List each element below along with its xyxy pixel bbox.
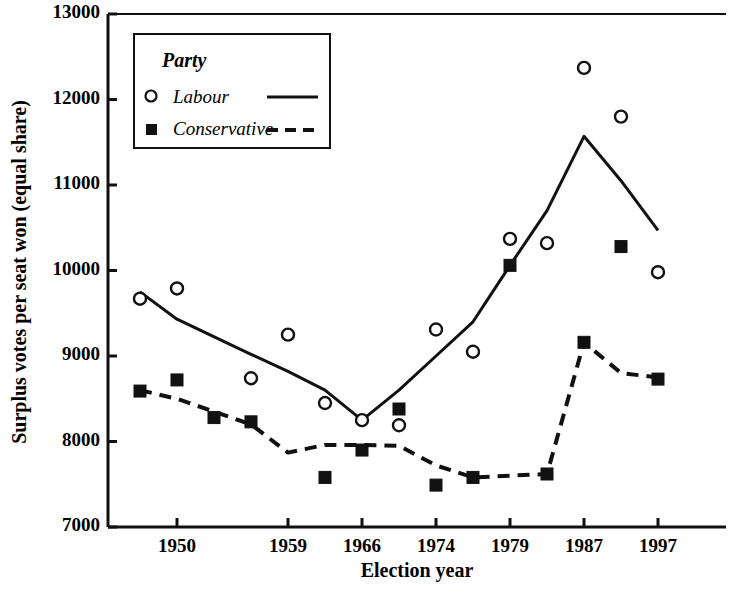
x-tick-label: 1979 [484,535,536,557]
data-point-labour [134,293,146,305]
x-tick-label: 1997 [632,535,684,557]
data-point-conservative [208,412,220,424]
y-tick-label: 10000 [53,258,101,280]
data-point-labour [467,346,479,358]
data-point-conservative [319,471,331,483]
data-point-conservative [541,468,553,480]
data-point-labour [245,372,257,384]
x-tick-label: 1959 [262,535,314,557]
data-point-conservative [245,416,257,428]
data-point-labour [578,62,590,74]
data-point-conservative [171,374,183,386]
y-tick-label: 11000 [54,172,100,194]
data-point-labour [393,419,405,431]
legend: Party Labour Conservative [134,34,330,148]
data-point-conservative [393,403,405,415]
x-tick-label: 1974 [410,535,462,557]
data-point-labour [319,397,331,409]
data-point-conservative [430,479,442,491]
data-point-conservative [615,241,627,253]
x-axis-title: Election year [361,559,474,582]
legend-marker-filled-square-icon [146,124,157,135]
y-tick-label: 12000 [53,87,101,109]
x-tick-label: 1987 [558,535,610,557]
chart-figure: Election year Surplus votes per seat won… [0,0,730,593]
data-point-labour [282,329,294,341]
data-point-conservative [134,385,146,397]
data-point-conservative [578,336,590,348]
y-tick-label: 8000 [62,429,100,451]
x-tick-label: 1966 [336,535,388,557]
data-point-labour [615,111,627,123]
data-point-labour [430,323,442,335]
x-tick-label: 1950 [151,535,203,557]
data-point-labour [652,266,664,278]
data-point-conservative [467,471,479,483]
data-point-labour [541,237,553,249]
data-point-conservative [356,444,368,456]
data-point-labour [504,233,516,245]
y-axis-title: Surplus votes per seat won (equal share) [8,100,31,444]
y-tick-label: 13000 [53,1,101,23]
legend-title: Party [161,49,207,72]
legend-label-conservative: Conservative [173,118,273,139]
data-point-conservative [504,259,516,271]
data-point-labour [171,282,183,294]
legend-label-labour: Labour [172,86,230,107]
y-tick-label: 9000 [62,343,100,365]
trend-line-labour [140,136,658,420]
y-tick-label: 7000 [62,514,100,536]
chart-svg: Election year Surplus votes per seat won… [0,0,730,593]
data-point-labour [356,414,368,426]
data-point-conservative [652,373,664,385]
